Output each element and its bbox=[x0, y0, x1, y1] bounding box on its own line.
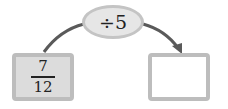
numerator: 7 bbox=[38, 59, 48, 74]
operation-oval: ÷5 bbox=[82, 5, 144, 39]
denominator: 12 bbox=[33, 80, 52, 95]
operation-label: ÷5 bbox=[99, 11, 127, 33]
input-box: 7 12 bbox=[12, 53, 74, 101]
answer-box[interactable] bbox=[148, 53, 210, 101]
fraction: 7 12 bbox=[16, 57, 70, 97]
